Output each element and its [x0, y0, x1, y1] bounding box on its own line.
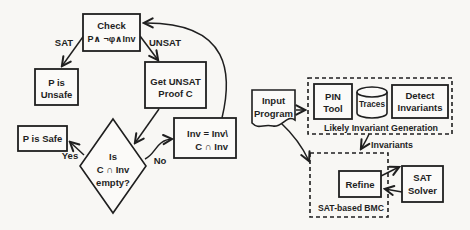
- inv-update-line1: Inv = Inv\: [187, 128, 228, 139]
- input-to-bmc-arrow: [281, 123, 309, 161]
- proof-to-decision-arrow: [135, 109, 159, 143]
- input-program-line1: Input: [262, 95, 286, 106]
- invariants-arrow: [361, 134, 369, 149]
- pin-tool-line1: PIN: [325, 91, 341, 102]
- pin-tool-line2: Tool: [323, 103, 342, 114]
- refine-label: Refine: [345, 179, 374, 190]
- check-box-title: Check: [97, 20, 126, 31]
- sat-edge-label: SAT: [55, 37, 73, 48]
- invariants-edge-label: Invariants: [371, 139, 413, 150]
- unsat-edge-label: UNSAT: [149, 37, 181, 48]
- sat-solver-line2: Solver: [408, 185, 437, 196]
- sat-solver-line1: SAT: [413, 172, 431, 183]
- tool-architecture-diagram: Input Program Likely Invariant Generatio…: [252, 78, 452, 217]
- get-unsat-line2: Proof C: [158, 88, 192, 99]
- sat-based-bmc-label: SAT-based BMC: [318, 202, 384, 213]
- refine-to-solver-arrow: [381, 167, 399, 176]
- verification-loop-flowchart: Check P∧ ¬φ∧Inv SAT UNSAT P is Unsafe Ge…: [18, 14, 236, 213]
- inv-update-line2: C ∩ Inv: [195, 141, 228, 152]
- diagram-canvas: Check P∧ ¬φ∧Inv SAT UNSAT P is Unsafe Ge…: [0, 0, 470, 230]
- p-safe-label: P is Safe: [23, 133, 62, 144]
- check-box-formula: P∧ ¬φ∧Inv: [88, 34, 136, 44]
- no-edge-label: No: [154, 155, 167, 166]
- decision-line1: Is: [109, 151, 117, 162]
- decision-line2: C ∩ Inv: [97, 164, 130, 175]
- flowchart-figure: Check P∧ ¬φ∧Inv SAT UNSAT P is Unsafe Ge…: [0, 0, 470, 230]
- decision-line3: empty?: [96, 177, 130, 188]
- detect-invariants-line2: Invariants: [398, 102, 443, 113]
- traces-label: Traces: [359, 99, 385, 109]
- detect-invariants-line1: Detect: [405, 90, 435, 101]
- yes-edge-label: Yes: [62, 150, 78, 161]
- p-unsafe-line1: P is: [48, 77, 65, 88]
- input-program-line2: Program: [254, 108, 293, 119]
- get-unsat-line1: Get UNSAT: [150, 76, 201, 87]
- p-unsafe-line2: Unsafe: [41, 89, 73, 100]
- likely-invariant-generation-label: Likely Invariant Generation: [324, 122, 438, 133]
